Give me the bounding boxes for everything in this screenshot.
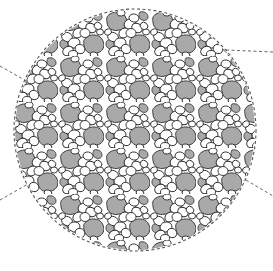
leader-line-lower-left	[0, 184, 28, 200]
magnified-pattern	[0, 0, 273, 271]
magnified-inset-diagram	[0, 0, 273, 271]
leader-line-lower-right	[246, 180, 273, 196]
leader-line-upper-right	[226, 50, 273, 52]
leader-line-upper-left	[0, 66, 28, 82]
